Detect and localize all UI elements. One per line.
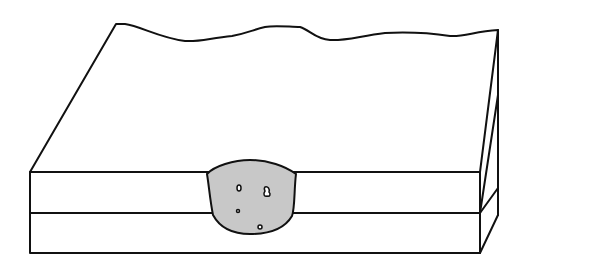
- void-2: [264, 187, 270, 196]
- void-4: [258, 225, 262, 229]
- weld-nugget: [207, 160, 296, 234]
- void-3: [237, 210, 240, 213]
- void-1: [237, 185, 241, 191]
- weld-diagram: [0, 0, 609, 276]
